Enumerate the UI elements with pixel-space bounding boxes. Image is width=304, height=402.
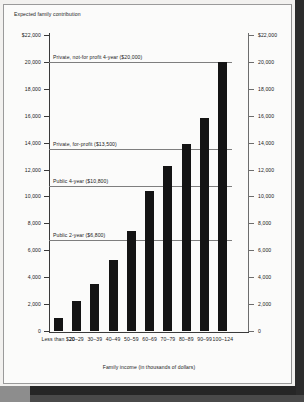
reference-line-label: Private, not-for profit 4-year ($20,000) xyxy=(53,54,142,60)
bar xyxy=(109,260,118,331)
y-tick-label-left: 0 xyxy=(38,328,41,334)
reference-line xyxy=(49,62,232,63)
y-tick-label-left: 20,000 xyxy=(25,59,41,65)
y-tick-right xyxy=(249,223,254,224)
y-tick-label-left: 6,000 xyxy=(28,247,41,253)
y-tick-label-right: 14,000 xyxy=(258,139,274,145)
y-tick-label-right: 4,000 xyxy=(258,274,271,280)
y-tick-label-left: $22,000 xyxy=(22,32,41,38)
y-tick-right xyxy=(249,35,254,36)
y-tick-right xyxy=(249,116,254,117)
y-tick-label-right: $22,000 xyxy=(258,32,277,38)
y-tick-right xyxy=(249,89,254,90)
reference-line-label: Public 4-year ($10,800) xyxy=(53,178,108,184)
y-tick-right xyxy=(249,143,254,144)
scan-edge-bottom xyxy=(0,395,304,402)
y-tick-right xyxy=(249,170,254,171)
y-tick-right xyxy=(249,331,254,332)
y-tick-label-left: 8,000 xyxy=(28,220,41,226)
bar xyxy=(163,166,172,331)
y-axis-left-ticks: 02,0004,0006,0008,00010,00012,00014,0001… xyxy=(4,5,49,402)
y-tick-label-right: 8,000 xyxy=(258,220,271,226)
y-tick-right xyxy=(249,277,254,278)
y-tick-label-left: 18,000 xyxy=(25,86,41,92)
y-tick-label-right: 20,000 xyxy=(258,59,274,65)
bar xyxy=(127,231,136,331)
bar xyxy=(90,284,99,331)
y-tick-label-left: 10,000 xyxy=(25,193,41,199)
scan-edge-right xyxy=(295,0,304,396)
y-tick-label-left: 4,000 xyxy=(28,274,41,280)
bar xyxy=(218,62,227,331)
scan-edge-bottom-dark xyxy=(0,386,296,395)
y-tick-label-right: 2,000 xyxy=(258,301,271,307)
bar xyxy=(182,144,191,331)
y-tick-label-left: 14,000 xyxy=(25,139,41,145)
bar xyxy=(72,301,81,331)
bar xyxy=(200,118,209,331)
y-tick-label-right: 18,000 xyxy=(258,86,274,92)
bar xyxy=(145,191,154,331)
y-tick-label-right: 16,000 xyxy=(258,113,274,119)
y-tick-left xyxy=(44,331,49,332)
y-tick-label-right: 10,000 xyxy=(258,193,274,199)
y-tick-right xyxy=(249,196,254,197)
x-axis-tick-labels: Less than $2020–2930–3940–4950–5960–6970… xyxy=(49,336,249,362)
y-tick-label-left: 12,000 xyxy=(25,166,41,172)
scanned-page: Expected family contribution 02,0004,000… xyxy=(0,0,304,402)
scan-edge-corner xyxy=(0,386,30,402)
reference-line-label: Private, for-profit ($13,500) xyxy=(53,141,117,147)
x-axis-title: Family income (in thousands of dollars) xyxy=(49,364,249,370)
y-tick-label-left: 16,000 xyxy=(25,113,41,119)
bar xyxy=(54,318,63,331)
y-tick-right xyxy=(249,304,254,305)
y-tick-label-right: 0 xyxy=(258,328,261,334)
y-tick-right xyxy=(249,62,254,63)
y-tick-label-right: 12,000 xyxy=(258,166,274,172)
chart-figure: Expected family contribution 02,0004,000… xyxy=(3,4,292,384)
reference-line-label: Public 2-year ($6,800) xyxy=(53,232,105,238)
y-tick-right xyxy=(249,250,254,251)
x-tick-label: 100–124 xyxy=(206,336,240,342)
plot-area: Private, not-for profit 4-year ($20,000)… xyxy=(49,35,232,331)
x-axis-line xyxy=(49,332,249,333)
y-tick-label-left: 2,000 xyxy=(28,301,41,307)
y-tick-label-right: 6,000 xyxy=(258,247,271,253)
